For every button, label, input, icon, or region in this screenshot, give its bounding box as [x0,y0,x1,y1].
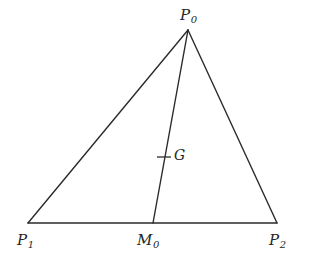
vertex-label-p0: P0 [180,8,197,25]
vertex-label-m0: M0 [137,233,159,250]
vertex-label-p1-text: P [17,231,27,249]
vertex-label-p1-subscript: 1 [27,239,34,250]
vertex-label-p1: P1 [17,233,34,250]
vertex-label-p2-subscript: 2 [279,239,286,250]
triangle-outline [28,30,277,223]
side-p0-p2-line [188,30,277,223]
side-p0-p1-line [28,30,188,223]
centroid-label-g-text: G [174,147,185,163]
centroid-label-g: G [174,148,185,162]
vertex-label-p2-text: P [269,231,279,249]
vertex-label-p2: P2 [269,233,286,250]
vertex-label-p0-subscript: 0 [190,14,197,25]
vertex-label-p0-text: P [180,6,190,24]
vertex-label-m0-subscript: 0 [153,239,160,250]
vertex-label-m0-text: M [137,231,153,249]
geometry-figure: P0 P1 P2 M0 G [0,0,313,280]
median-p0-m0-line [153,30,188,223]
